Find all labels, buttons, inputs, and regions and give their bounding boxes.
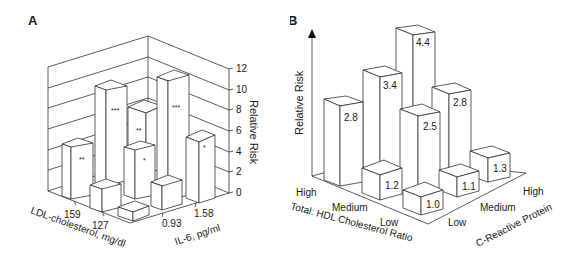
svg-text:2: 2 xyxy=(236,166,242,177)
panel-a-ztick-158: 1.58 xyxy=(194,208,214,219)
svg-text:**: ** xyxy=(136,127,142,134)
panel-b-label: B xyxy=(290,13,297,28)
panel-b-ztick-low: Low xyxy=(448,217,467,228)
bar-a-low-low xyxy=(118,201,149,221)
svg-text:1.0: 1.0 xyxy=(426,199,440,210)
bar-a-low-158: * xyxy=(186,130,215,203)
bar-a-127-093: * xyxy=(124,141,155,199)
panel-a-ylabel: Relative Risk xyxy=(248,100,260,165)
panel-b-xtick-high: High xyxy=(296,187,317,198)
svg-text:*: * xyxy=(143,157,146,164)
svg-text:***: *** xyxy=(111,107,119,114)
panel-a-yticks: 0 2 4 6 8 10 12 xyxy=(236,63,248,198)
panel-a-bars: ** *** *** ** xyxy=(62,70,215,221)
bar-a-159-low: ** xyxy=(62,138,93,199)
bar-b-high-low: 2.8 xyxy=(324,96,363,186)
svg-text:2.8: 2.8 xyxy=(344,112,358,123)
bar-a-159-093: *** xyxy=(95,80,127,187)
svg-text:8: 8 xyxy=(236,104,242,115)
svg-text:12: 12 xyxy=(236,63,248,74)
svg-text:6: 6 xyxy=(236,125,242,136)
arrow-up-icon xyxy=(308,29,316,38)
svg-text:4: 4 xyxy=(236,146,242,157)
bar-a-low-093 xyxy=(151,175,182,210)
panel-a-label: A xyxy=(28,13,38,28)
svg-text:2.5: 2.5 xyxy=(423,121,437,132)
panel-a-chart: A xyxy=(0,0,290,267)
panel-b-chart: B Relative Risk 4.4 2.8 xyxy=(290,0,579,267)
svg-text:4.4: 4.4 xyxy=(416,37,430,48)
bar-a-127-low xyxy=(90,179,121,212)
svg-text:***: *** xyxy=(172,104,180,111)
bar-b-med-low: 1.2 xyxy=(362,160,402,200)
svg-text:10: 10 xyxy=(236,84,248,95)
svg-text:2.8: 2.8 xyxy=(453,97,467,108)
bar-b-low-med: 1.1 xyxy=(439,164,479,197)
svg-text:3.4: 3.4 xyxy=(383,80,397,91)
svg-text:*: * xyxy=(203,144,206,151)
panel-b-ztick-high: High xyxy=(523,186,544,197)
panel-b-ztick-medium: Medium xyxy=(480,202,516,213)
svg-text:**: ** xyxy=(79,156,85,163)
panel-a-ztick-093: 0.93 xyxy=(162,218,182,229)
panel-b-bars: 4.4 2.8 3.4 2.8 xyxy=(324,25,510,215)
svg-text:1.3: 1.3 xyxy=(493,163,507,174)
panel-b: B Relative Risk 4.4 2.8 xyxy=(290,0,579,267)
svg-text:1.1: 1.1 xyxy=(462,181,476,192)
svg-text:0: 0 xyxy=(236,187,242,198)
panel-b-ylabel: Relative Risk xyxy=(293,70,305,135)
svg-text:1.2: 1.2 xyxy=(385,180,399,191)
panel-a: A xyxy=(0,0,290,267)
